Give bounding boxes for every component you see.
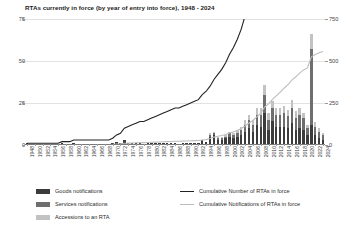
legend-bars-column: Goods notificationsServices notification…	[36, 185, 110, 224]
x-tick-mark	[89, 144, 90, 146]
x-tick-mark	[253, 144, 254, 146]
x-tick-label: 2000	[232, 146, 238, 157]
y-tick-mark-left	[22, 61, 25, 62]
x-tick-label: 1948	[29, 146, 35, 157]
cumulative-line	[27, 52, 323, 145]
x-tick-mark	[105, 144, 106, 146]
y-tick-mark-right	[325, 103, 328, 104]
x-tick-mark	[245, 144, 246, 146]
x-tick-mark	[276, 144, 277, 146]
x-tick-label: 1952	[45, 146, 51, 157]
x-tick-label: 1972	[122, 146, 128, 157]
x-tick-label: 2002	[239, 146, 245, 157]
x-tick-mark	[128, 144, 129, 146]
x-tick-mark	[292, 144, 293, 146]
x-tick-label: 2018	[302, 146, 308, 157]
x-tick-mark	[159, 144, 160, 146]
x-tick-mark	[214, 144, 215, 146]
x-tick-label: 1954	[52, 146, 58, 157]
x-tick-label: 2008	[263, 146, 269, 157]
x-tick-mark	[43, 144, 44, 146]
legend-swatch-icon	[36, 202, 50, 207]
x-axis-labels: 1948195019521954195619581960196219641966…	[25, 146, 325, 174]
x-tick-label: 1994	[208, 146, 214, 157]
legend-item[interactable]: Accessions to an RTA	[36, 211, 110, 223]
x-tick-label: 1982	[161, 146, 167, 157]
x-tick-label: 1988	[185, 146, 191, 157]
legend-item[interactable]: Cumulative Notifications of RTAs in forc…	[180, 198, 300, 210]
x-tick-label: 1980	[154, 146, 160, 157]
x-tick-label: 1958	[68, 146, 74, 157]
x-tick-label: 1996	[216, 146, 222, 157]
x-tick-label: 2012	[278, 146, 284, 157]
x-tick-mark	[50, 144, 51, 146]
legend-item[interactable]: Cumulative Number of RTAs in force	[180, 185, 300, 197]
x-tick-label: 2014	[286, 146, 292, 157]
x-tick-label: 1964	[91, 146, 97, 157]
x-tick-label: 1960	[76, 146, 82, 157]
x-tick-mark	[120, 144, 121, 146]
x-tick-mark	[230, 144, 231, 146]
legend-label: Cumulative Number of RTAs in force	[199, 188, 290, 194]
x-tick-mark	[66, 144, 67, 146]
x-tick-mark	[269, 144, 270, 146]
x-tick-mark	[191, 144, 192, 146]
legend-swatch-icon	[36, 215, 50, 220]
x-tick-mark	[136, 144, 137, 146]
x-tick-label: 1962	[83, 146, 89, 157]
y-tick-mark-left	[22, 19, 25, 20]
x-tick-label: 2010	[271, 146, 277, 157]
lines-layer	[25, 19, 325, 145]
legend-label: Accessions to an RTA	[55, 214, 110, 220]
legend-label: Cumulative Notifications of RTAs in forc…	[199, 201, 300, 207]
x-tick-label: 1956	[60, 146, 66, 157]
x-tick-mark	[152, 144, 153, 146]
legend-label: Services notifications	[55, 201, 108, 207]
x-tick-mark	[315, 144, 316, 146]
x-tick-label: 2016	[294, 146, 300, 157]
x-tick-mark	[206, 144, 207, 146]
x-tick-label: 2006	[255, 146, 261, 157]
x-tick-label: 2022	[317, 146, 323, 157]
x-tick-mark	[183, 144, 184, 146]
x-tick-label: 1984	[169, 146, 175, 157]
x-tick-label: 1986	[177, 146, 183, 157]
x-tick-mark	[74, 144, 75, 146]
x-tick-mark	[58, 144, 59, 146]
x-tick-mark	[97, 144, 98, 146]
cumulative-line	[27, 19, 323, 143]
x-tick-label: 1970	[115, 146, 121, 157]
x-tick-mark	[300, 144, 301, 146]
x-tick-mark	[307, 144, 308, 146]
x-tick-label: 1966	[99, 146, 105, 157]
y-tick-mark-left	[22, 103, 25, 104]
legend-line-icon	[180, 191, 194, 192]
x-tick-mark	[35, 144, 36, 146]
x-tick-mark	[261, 144, 262, 146]
x-tick-label: 1990	[193, 146, 199, 157]
x-tick-mark	[144, 144, 145, 146]
x-tick-label: 1976	[138, 146, 144, 157]
legend-lines-column: Cumulative Number of RTAs in forceCumula…	[180, 185, 300, 211]
legend-item[interactable]: Goods notifications	[36, 185, 110, 197]
x-tick-mark	[167, 144, 168, 146]
legend-line-icon	[180, 204, 194, 205]
x-tick-mark	[284, 144, 285, 146]
x-tick-mark	[222, 144, 223, 146]
legend-item[interactable]: Services notifications	[36, 198, 110, 210]
x-tick-label: 2004	[247, 146, 253, 157]
y-tick-mark-right	[325, 61, 328, 62]
x-tick-label: 1992	[200, 146, 206, 157]
x-tick-mark	[27, 144, 28, 146]
x-tick-mark	[323, 144, 324, 146]
x-tick-label: 2020	[309, 146, 315, 157]
x-tick-label: 2024	[325, 146, 331, 157]
legend: Goods notificationsServices notification…	[25, 185, 335, 227]
x-tick-mark	[198, 144, 199, 146]
x-tick-mark	[113, 144, 114, 146]
y-tick-mark-right	[325, 19, 328, 20]
legend-swatch-icon	[36, 189, 50, 194]
page-title: RTAs currently in force (by year of entr…	[25, 4, 215, 11]
y-tick-label-right: 750	[329, 16, 353, 22]
x-tick-mark	[175, 144, 176, 146]
